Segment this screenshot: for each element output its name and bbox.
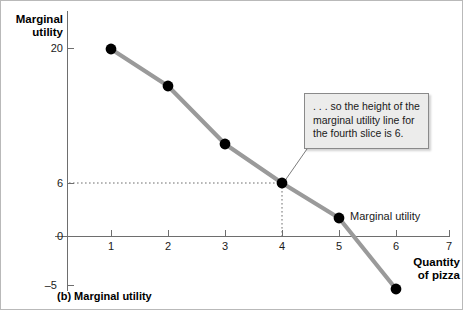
data-point-1: [106, 44, 117, 55]
callout-line-3: the fourth slice is 6.: [313, 127, 403, 139]
x-axis-title-line1: Quantity: [413, 256, 460, 268]
callout-leader-line: [284, 149, 307, 182]
figure-caption: (b) Marginal utility: [57, 290, 152, 302]
marginal-utility-line: [111, 49, 396, 289]
callout-line-2: marginal utility line for: [313, 114, 415, 126]
x-axis-title: Quantity of pizza: [396, 256, 460, 282]
callout-annotation: . . . so the height of the marginal util…: [304, 93, 429, 149]
data-point-2: [163, 81, 174, 92]
series-label-marginal-utility: Marginal utility: [350, 210, 420, 222]
marginal-utility-chart-figure: Marginal utility 20 6 0 –5 1 2 3 4 5 6 7: [0, 0, 463, 310]
data-point-3: [220, 139, 231, 150]
data-point-4: [277, 178, 288, 189]
plot-area: [1, 1, 463, 310]
x-axis-title-line2: of pizza: [418, 269, 460, 281]
data-point-6: [391, 284, 402, 295]
callout-line-1: . . . so the height of the: [313, 100, 420, 112]
data-point-5: [334, 213, 345, 224]
